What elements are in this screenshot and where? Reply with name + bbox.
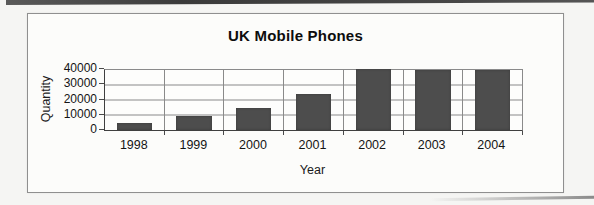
y-tick-label-30000: 30000 xyxy=(42,76,104,91)
y-tick-label-0: 0 xyxy=(42,122,104,137)
bar-1999 xyxy=(176,116,211,130)
x-tick-label-2000: 2000 xyxy=(223,138,283,152)
bar-2003 xyxy=(415,70,450,130)
x-axis-title: Year xyxy=(104,163,521,177)
plot-area xyxy=(104,69,523,131)
bar-1998 xyxy=(117,123,152,131)
bar-2001 xyxy=(296,94,331,130)
category-slot-2001 xyxy=(284,70,344,130)
chart-frame: UK Mobile Phones Quantity 40000300002000… xyxy=(27,13,564,193)
y-axis-tick-labels: 400003000020000100000 xyxy=(42,61,104,137)
x-tick-label-2004: 2004 xyxy=(461,138,521,152)
y-tick-label-10000: 10000 xyxy=(42,107,104,122)
scan-artifact-bottom-right xyxy=(430,196,594,201)
y-tick-label-40000: 40000 xyxy=(42,61,104,76)
x-tick-label-2002: 2002 xyxy=(342,138,402,152)
bar-2004 xyxy=(475,70,510,130)
category-slot-2002 xyxy=(344,70,404,130)
chart-title: UK Mobile Phones xyxy=(28,27,563,44)
scan-artifact-top-band xyxy=(6,0,594,5)
x-tick-label-1999: 1999 xyxy=(164,138,224,152)
x-tick-label-2001: 2001 xyxy=(283,138,343,152)
category-slot-2004 xyxy=(463,70,522,130)
x-axis-tick-labels: 1998199920002001200220032004 xyxy=(104,138,521,152)
bar-2002 xyxy=(356,69,391,130)
x-tick-label-1998: 1998 xyxy=(104,138,164,152)
category-slot-2003 xyxy=(404,70,464,130)
category-slot-1999 xyxy=(165,70,225,130)
y-tick-label-20000: 20000 xyxy=(42,92,104,107)
category-slot-1998 xyxy=(105,70,165,130)
category-slot-2000 xyxy=(224,70,284,130)
bar-2000 xyxy=(236,108,271,130)
x-tick-label-2003: 2003 xyxy=(402,138,462,152)
